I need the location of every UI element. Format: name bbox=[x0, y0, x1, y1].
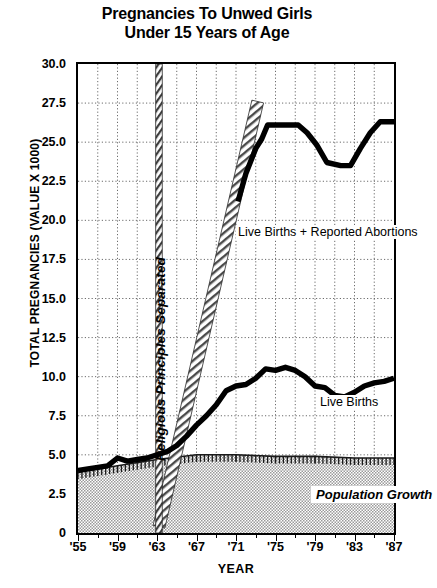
x-axis-title: YEAR bbox=[76, 562, 396, 576]
x-tick-mark bbox=[276, 533, 277, 541]
x-tick-mark bbox=[374, 533, 375, 538]
y-tick-label: 27.5 bbox=[42, 96, 66, 110]
y-tick-label: 7.5 bbox=[49, 409, 66, 423]
x-tick-label: '55 bbox=[70, 540, 87, 554]
y-axis-title: TOTAL PREGNANCIES (VALUE X 1000) bbox=[28, 103, 42, 403]
x-tick-mark bbox=[295, 533, 296, 538]
y-tick-label: 17.5 bbox=[42, 252, 66, 266]
x-tick-mark bbox=[118, 533, 119, 541]
y-tick-label: 20.0 bbox=[42, 213, 66, 227]
x-tick-label: '83 bbox=[346, 540, 363, 554]
annotation-live-births: Live Births bbox=[318, 395, 380, 409]
y-tick-label: 15.0 bbox=[42, 292, 66, 306]
y-tick-label: 12.5 bbox=[42, 331, 66, 345]
x-axis-tick-labels: '55'59'63'67'71'75'79'83'87 bbox=[0, 540, 414, 560]
x-tick-mark bbox=[236, 533, 237, 541]
y-tick-label: 25.0 bbox=[42, 135, 66, 149]
x-tick-mark bbox=[98, 533, 99, 538]
x-tick-label: '59 bbox=[109, 540, 126, 554]
y-tick-label: 0 bbox=[59, 526, 66, 540]
y-tick-label: 30.0 bbox=[42, 57, 66, 71]
y-tick-label: 5.0 bbox=[49, 448, 66, 462]
x-tick-label: '79 bbox=[307, 540, 324, 554]
plot-area: Live Births + Reported Abortions Live Bi… bbox=[76, 62, 396, 535]
x-tick-label: '67 bbox=[188, 540, 205, 554]
x-tick-label: '75 bbox=[267, 540, 284, 554]
x-tick-mark bbox=[157, 533, 158, 541]
x-tick-mark bbox=[216, 533, 217, 538]
x-tick-mark bbox=[394, 533, 395, 541]
x-tick-label: '71 bbox=[228, 540, 245, 554]
x-tick-mark bbox=[335, 533, 336, 538]
series-line bbox=[238, 122, 394, 202]
annotation-live-births-plus-abortions: Live Births + Reported Abortions bbox=[236, 225, 420, 239]
y-tick-label: 22.5 bbox=[42, 174, 66, 188]
y-tick-label: 2.5 bbox=[49, 487, 66, 501]
x-tick-label: '63 bbox=[149, 540, 166, 554]
plot-svg bbox=[78, 64, 394, 533]
x-tick-mark bbox=[137, 533, 138, 538]
y-tick-label: 10.0 bbox=[42, 370, 66, 384]
annotation-population-growth: Population Growth bbox=[311, 486, 437, 503]
x-tick-mark bbox=[177, 533, 178, 538]
x-tick-mark bbox=[197, 533, 198, 541]
annotation-religious-principles-separated: Religious Principles Separated bbox=[153, 257, 168, 461]
x-tick-mark bbox=[355, 533, 356, 541]
x-tick-mark bbox=[256, 533, 257, 538]
x-tick-label: '87 bbox=[386, 540, 403, 554]
x-tick-mark bbox=[78, 533, 79, 541]
x-tick-mark bbox=[315, 533, 316, 541]
